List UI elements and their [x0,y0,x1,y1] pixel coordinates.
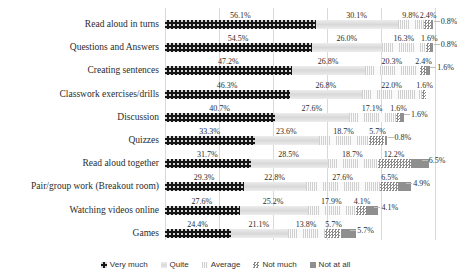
category-label: Games [133,228,159,239]
value-label-quite: 23.6% [276,127,297,136]
bar-segment-average [362,90,421,99]
bar-segment-quite [231,229,288,238]
label-leader-line [350,230,356,231]
value-label-quite: 30.1% [346,11,367,20]
bar-segment-very-much [165,113,275,122]
bar-segment-quite [255,136,319,145]
bar-segment-quite [240,206,308,215]
legend-item-average[interactable]: Average [202,260,241,269]
bar-segment-not-at-all [385,136,387,145]
chart-legend: Very muchQuiteAverageNot muchNot at all [0,260,451,269]
value-label-not-much: 1.6% [421,34,438,43]
value-label-average: 17.9% [321,197,342,206]
bar-row [165,90,435,99]
value-label-average: 20.3% [381,57,402,66]
category-label: Creating sentences [88,65,160,76]
value-label-average: 16.3% [394,34,415,43]
bar-segment-very-much [165,136,255,145]
value-label-not-at-all: 6.5% [429,156,446,165]
label-leader-line [430,67,436,68]
value-label-very-much: 56.1% [230,11,251,20]
label-leader-line [434,44,440,45]
category-label: Discussion [117,112,159,123]
legend-item-not-much[interactable]: Not much [253,260,296,269]
bar-segment-not-much [378,159,411,168]
legend-label: Not much [262,260,296,269]
value-label-very-much: 24.4% [187,220,208,229]
value-label-very-much: 47.2% [218,57,239,66]
value-label-quite: 27.6% [301,104,322,113]
value-label-average: 18.7% [342,150,363,159]
legend-label: Average [211,260,241,269]
bar-segment-not-much [325,229,340,238]
bar-row [165,43,435,52]
value-label-average: 9.8% [402,11,419,20]
value-label-not-much: 2.4% [415,57,432,66]
bar-segment-quite [275,113,350,122]
bar-segment-average [308,206,356,215]
bar-segment-quite [290,90,362,99]
bar-segment-quite [251,159,328,168]
value-label-not-at-all: 1.6% [437,63,454,72]
bar-segment-average [288,229,325,238]
bar-segment-very-much [165,229,231,238]
value-label-not-at-all: 4.9% [413,179,430,188]
category-label: Read aloud in turns [85,19,159,30]
legend-swatch-not-at-all [310,262,316,268]
label-leader-line [404,114,410,115]
value-label-very-much: 27.6% [192,197,213,206]
category-label: Classwork exercises/drills [60,89,159,100]
value-label-not-at-all: 1.6% [411,110,428,119]
category-label: Pair/group work (Breakout room) [31,181,159,192]
value-label-not-at-all: 0.8% [441,17,457,26]
label-leader-line [374,207,380,208]
category-label: Read aloud together [82,158,159,169]
bar-segment-not-at-all [431,43,433,52]
value-label-not-at-all: 0.8% [441,40,457,49]
category-axis-labels: Read aloud in turnsQuestions and Answers… [0,8,162,240]
value-label-not-much: 4.1% [354,197,371,206]
legend-swatch-average [202,262,208,268]
legend-swatch-quite [161,262,167,268]
bar-segment-not-much [380,182,398,191]
value-label-not-much: 5.7% [325,220,342,229]
legend-item-very-much[interactable]: Very much [101,260,148,269]
bar-segment-not-much [356,206,367,215]
category-label: Questions and Answers [70,42,159,53]
value-label-not-at-all: 4.1% [381,203,398,212]
bar-row [165,66,435,75]
category-label: Quizzes [128,135,159,146]
legend-label: Quite [170,260,189,269]
bar-segment-very-much [165,182,244,191]
value-label-quite: 21.1% [249,220,270,229]
bar-row [165,113,435,122]
label-leader-line [388,137,394,138]
bar-segment-quite [316,20,397,29]
bar-row [165,20,435,29]
label-leader-line [422,160,428,161]
value-label-quite: 26.8% [318,57,339,66]
legend-item-not-at-all[interactable]: Not at all [310,260,351,269]
value-label-quite: 26.8% [315,81,336,90]
bar-segment-very-much [165,20,316,29]
bar-segment-very-much [165,159,251,168]
label-leader-line [434,21,440,22]
bar-segment-average [398,20,424,29]
value-label-very-much: 33.3% [199,127,220,136]
value-label-not-much: 2.4% [420,11,437,20]
bar-row [165,229,435,238]
value-label-not-much: 5.7% [369,127,386,136]
bar-segment-quite [244,182,306,191]
legend-item-quite[interactable]: Quite [161,260,189,269]
bar-segment-average [319,136,369,145]
bar-segment-average [349,113,395,122]
legend-swatch-not-much [253,262,259,268]
value-label-quite: 22.8% [264,173,285,182]
bar-segment-quite [312,43,382,52]
bar-segment-quite [292,66,364,75]
value-label-very-much: 54.5% [228,34,249,43]
legend-label: Not at all [319,260,351,269]
value-label-quite: 28.5% [278,150,299,159]
value-label-not-much: 1.6% [390,104,407,113]
